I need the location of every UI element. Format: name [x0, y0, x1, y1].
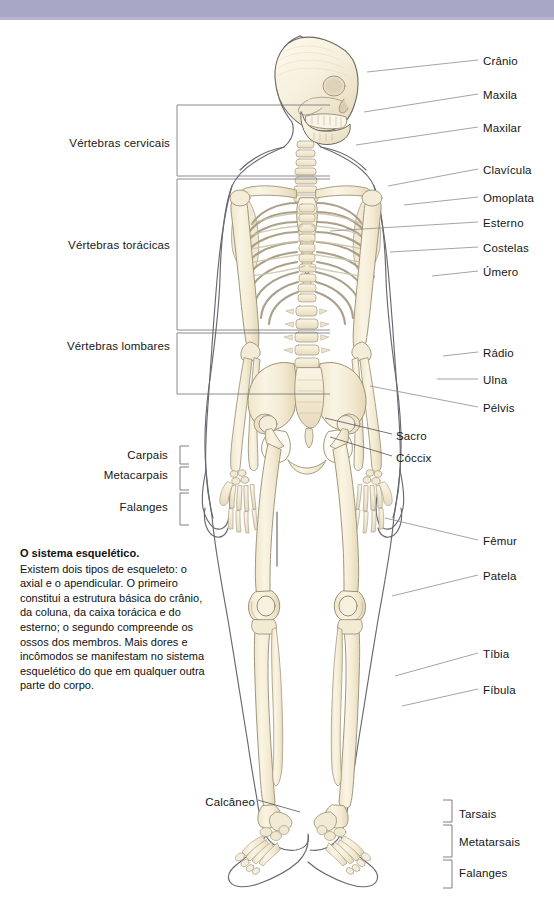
hand-bones — [220, 470, 392, 533]
label-vertebras-lombares: Vértebras lombares — [0, 341, 170, 353]
label-pelvis: Pélvis — [483, 403, 515, 415]
leader-line-clavicula — [388, 169, 478, 186]
bracket-lines-foot — [443, 800, 452, 888]
lumbar-vertebrae — [295, 306, 319, 368]
caption-block: O sistema esquelético. Existem dois tipo… — [20, 546, 206, 693]
foot-bones — [234, 805, 372, 876]
label-clavicula: Clavícula — [483, 165, 532, 177]
label-vertebras-cervicais: Vértebras cervicais — [0, 138, 170, 150]
tibia-fibula-bone — [252, 620, 363, 808]
label-tarsais: Tarsais — [459, 809, 496, 821]
label-ulna: Ulna — [483, 375, 507, 387]
label-falanges: Falanges — [0, 502, 168, 514]
label-umero: Úmero — [483, 267, 518, 279]
bracket-lines-hand — [180, 446, 189, 525]
label-fibula: Fíbula — [483, 685, 516, 697]
label-vertebras-toracicas: Vértebras torácicas — [0, 240, 170, 252]
illustration-page: CrânioMaxilaMaxilarClavículaOmoplataEste… — [0, 0, 554, 909]
label-maxila: Maxila — [483, 90, 517, 102]
leader-line-costelas — [390, 247, 478, 252]
caption-title: O sistema esquelético. — [20, 546, 206, 561]
leader-line-tibia — [395, 653, 478, 676]
label-sacro: Sacro — [396, 431, 427, 443]
label-costelas: Costelas — [483, 243, 529, 255]
label-esterno: Esterno — [483, 218, 524, 230]
label-calcaneo: Calcâneo — [0, 797, 255, 809]
label-femur: Fêmur — [483, 536, 517, 548]
label-cranio: Crânio — [483, 56, 518, 68]
label-maxilar: Maxilar — [483, 123, 521, 135]
label-metacarpais: Metacarpais — [0, 470, 168, 482]
label-tibia: Tíbia — [483, 649, 509, 661]
label-falanges-pe: Falanges — [459, 868, 508, 880]
leader-line-radio — [443, 352, 478, 356]
label-radio: Rádio — [483, 348, 514, 360]
leader-line-omoplata — [404, 197, 478, 205]
label-omoplata: Omoplata — [483, 193, 534, 205]
caption-body: Existem dois tipos de esqueleto: o axial… — [20, 562, 206, 693]
label-coccix: Cóccix — [396, 453, 431, 465]
label-carpais: Carpais — [0, 450, 168, 462]
label-metatarsais: Metatarsais — [459, 837, 520, 849]
leader-line-maxila — [364, 94, 478, 112]
cervical-vertebrae — [294, 141, 318, 202]
leader-line-cranio — [367, 60, 478, 72]
patella-bone — [257, 596, 357, 616]
leader-line-esterno — [330, 222, 478, 231]
leader-line-fibula — [402, 689, 478, 706]
leader-line-umero — [432, 271, 478, 276]
leader-line-pelvis — [370, 386, 478, 407]
skull-bone — [275, 37, 358, 144]
leader-line-maxilar — [356, 127, 478, 145]
label-patela: Patela — [483, 571, 517, 583]
leader-line-patela — [392, 575, 478, 596]
